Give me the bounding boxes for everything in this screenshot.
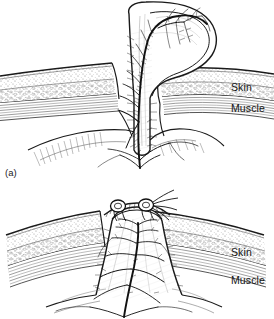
figure-root: Skin Muscle (a): [0, 0, 274, 319]
panel-a-caption: (a): [5, 168, 17, 178]
panel-a: Skin Muscle (a): [0, 0, 274, 185]
label-skin-panel-b: Skin: [231, 247, 252, 258]
label-muscle-panel-b: Muscle: [231, 275, 265, 286]
label-skin-panel-a: Skin: [231, 82, 252, 93]
label-muscle-panel-a: Muscle: [231, 103, 265, 114]
